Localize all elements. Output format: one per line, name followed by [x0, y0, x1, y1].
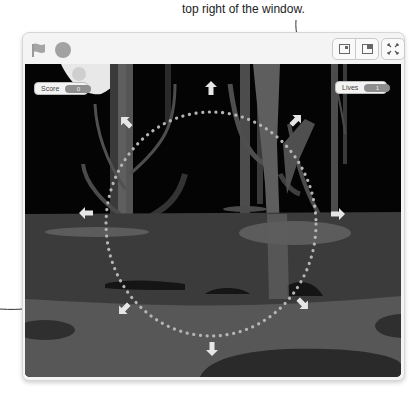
large-stage-button[interactable]: [355, 38, 379, 60]
lives-monitor[interactable]: Lives 1: [335, 81, 387, 94]
arrow-up-icon: [204, 81, 218, 95]
green-flag-icon[interactable]: [31, 42, 47, 58]
annotation-caption: top right of the window.: [182, 2, 305, 16]
fullscreen-button[interactable]: [381, 38, 405, 60]
lives-label: Lives: [342, 84, 358, 91]
score-monitor[interactable]: Score 0: [34, 82, 88, 95]
stage-window: Score 0 Lives 1: [22, 32, 405, 381]
stop-icon[interactable]: [55, 42, 71, 58]
game-stage[interactable]: Score 0 Lives 1: [25, 64, 401, 377]
small-stage-button[interactable]: [332, 38, 356, 60]
stage-toolbar: [23, 33, 404, 65]
score-label: Score: [41, 85, 59, 92]
arrow-right-icon: [331, 207, 345, 221]
arrow-down-icon: [205, 342, 219, 356]
score-value: 0: [65, 85, 91, 93]
fullscreen-icon: [387, 43, 399, 55]
arrow-left-icon: [79, 206, 93, 220]
small-stage-icon: [339, 44, 350, 54]
large-stage-icon: [362, 44, 373, 54]
lives-value: 1: [364, 84, 390, 92]
